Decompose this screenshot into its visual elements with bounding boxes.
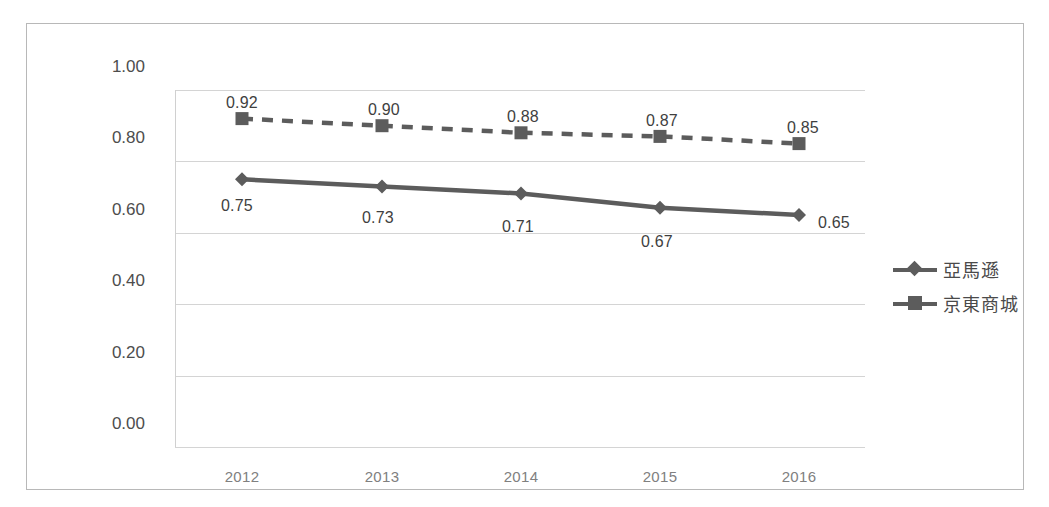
square-marker-icon	[893, 293, 937, 313]
data-label-amazon-2013: 0.73	[362, 209, 394, 227]
plot-area: 0.92 0.90 0.88 0.87 0.85 0.75 0.73 0.71 …	[175, 90, 865, 447]
gridline-0-00	[175, 447, 865, 448]
data-label-jd-2015: 0.87	[646, 112, 678, 130]
data-label-amazon-2016: 0.65	[818, 214, 850, 232]
data-label-amazon-2012: 0.75	[221, 197, 253, 215]
marker-diamond-amazon-2014	[514, 187, 528, 201]
y-tick-label: 0.00	[83, 414, 145, 434]
data-label-jd-2014: 0.88	[507, 108, 539, 126]
x-tick-label-2013: 2013	[365, 468, 400, 485]
legend-label-amazon: 亞馬遜	[943, 256, 1000, 282]
series-layer	[175, 90, 865, 447]
y-tick-label: 0.40	[83, 271, 145, 291]
marker-diamond-amazon-2013	[375, 179, 389, 193]
data-label-amazon-2015: 0.67	[641, 233, 673, 251]
cut-off-caption	[0, 0, 1049, 10]
data-label-jd-2012: 0.92	[226, 94, 258, 112]
y-tick-label: 0.20	[83, 343, 145, 363]
chart-frame: 1.00 0.80 0.60 0.40 0.20 0.00	[26, 23, 1024, 490]
marker-diamond-amazon-2012	[235, 172, 249, 186]
chart-legend: 亞馬遜 京東商城	[893, 252, 1019, 320]
data-label-jd-2016: 0.85	[787, 119, 819, 137]
data-label-amazon-2014: 0.71	[502, 218, 534, 236]
legend-item-jd[interactable]: 京東商城	[893, 286, 1019, 320]
marker-square-jd-2015	[654, 130, 667, 143]
x-tick-label-2015: 2015	[643, 468, 678, 485]
y-tick-label: 1.00	[83, 57, 145, 77]
x-tick-label-2012: 2012	[225, 468, 260, 485]
y-tick-label: 0.80	[83, 128, 145, 148]
y-tick-label: 0.60	[83, 200, 145, 220]
marker-square-jd-2013	[376, 119, 389, 132]
marker-diamond-amazon-2016	[792, 208, 806, 222]
x-tick-label-2016: 2016	[782, 468, 817, 485]
marker-square-jd-2016	[793, 137, 806, 150]
diamond-marker-icon	[893, 259, 937, 279]
marker-diamond-amazon-2015	[653, 201, 667, 215]
legend-label-jd: 京東商城	[943, 290, 1019, 316]
data-label-jd-2013: 0.90	[368, 101, 400, 119]
legend-item-amazon[interactable]: 亞馬遜	[893, 252, 1019, 286]
x-tick-label-2014: 2014	[504, 468, 539, 485]
marker-square-jd-2012	[236, 112, 249, 125]
marker-square-jd-2014	[515, 126, 528, 139]
